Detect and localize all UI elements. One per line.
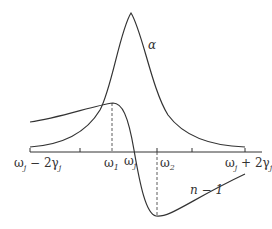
resonance-diagram: α n − 1 ωj − 2γj ω1 ωj ω2 ωj + 2γj [0, 0, 272, 229]
axis-ticks [30, 148, 245, 152]
diagram-canvas: α n − 1 ωj − 2γj ω1 ωj ω2 ωj + 2γj [0, 0, 272, 229]
tick-label-omega-j-minus-2gamma: ωj − 2γj [14, 156, 62, 172]
alpha-label: α [148, 38, 156, 52]
tick-label-omega-1: ω1 [104, 156, 119, 172]
tick-label-omega-j-plus-2gamma: ωj + 2γj [225, 156, 272, 172]
n-minus-1-curve [30, 103, 245, 216]
tick-label-omega-2: ω2 [160, 156, 175, 172]
alpha-curve [30, 13, 245, 147]
n-minus-1-label: n − 1 [190, 183, 223, 197]
